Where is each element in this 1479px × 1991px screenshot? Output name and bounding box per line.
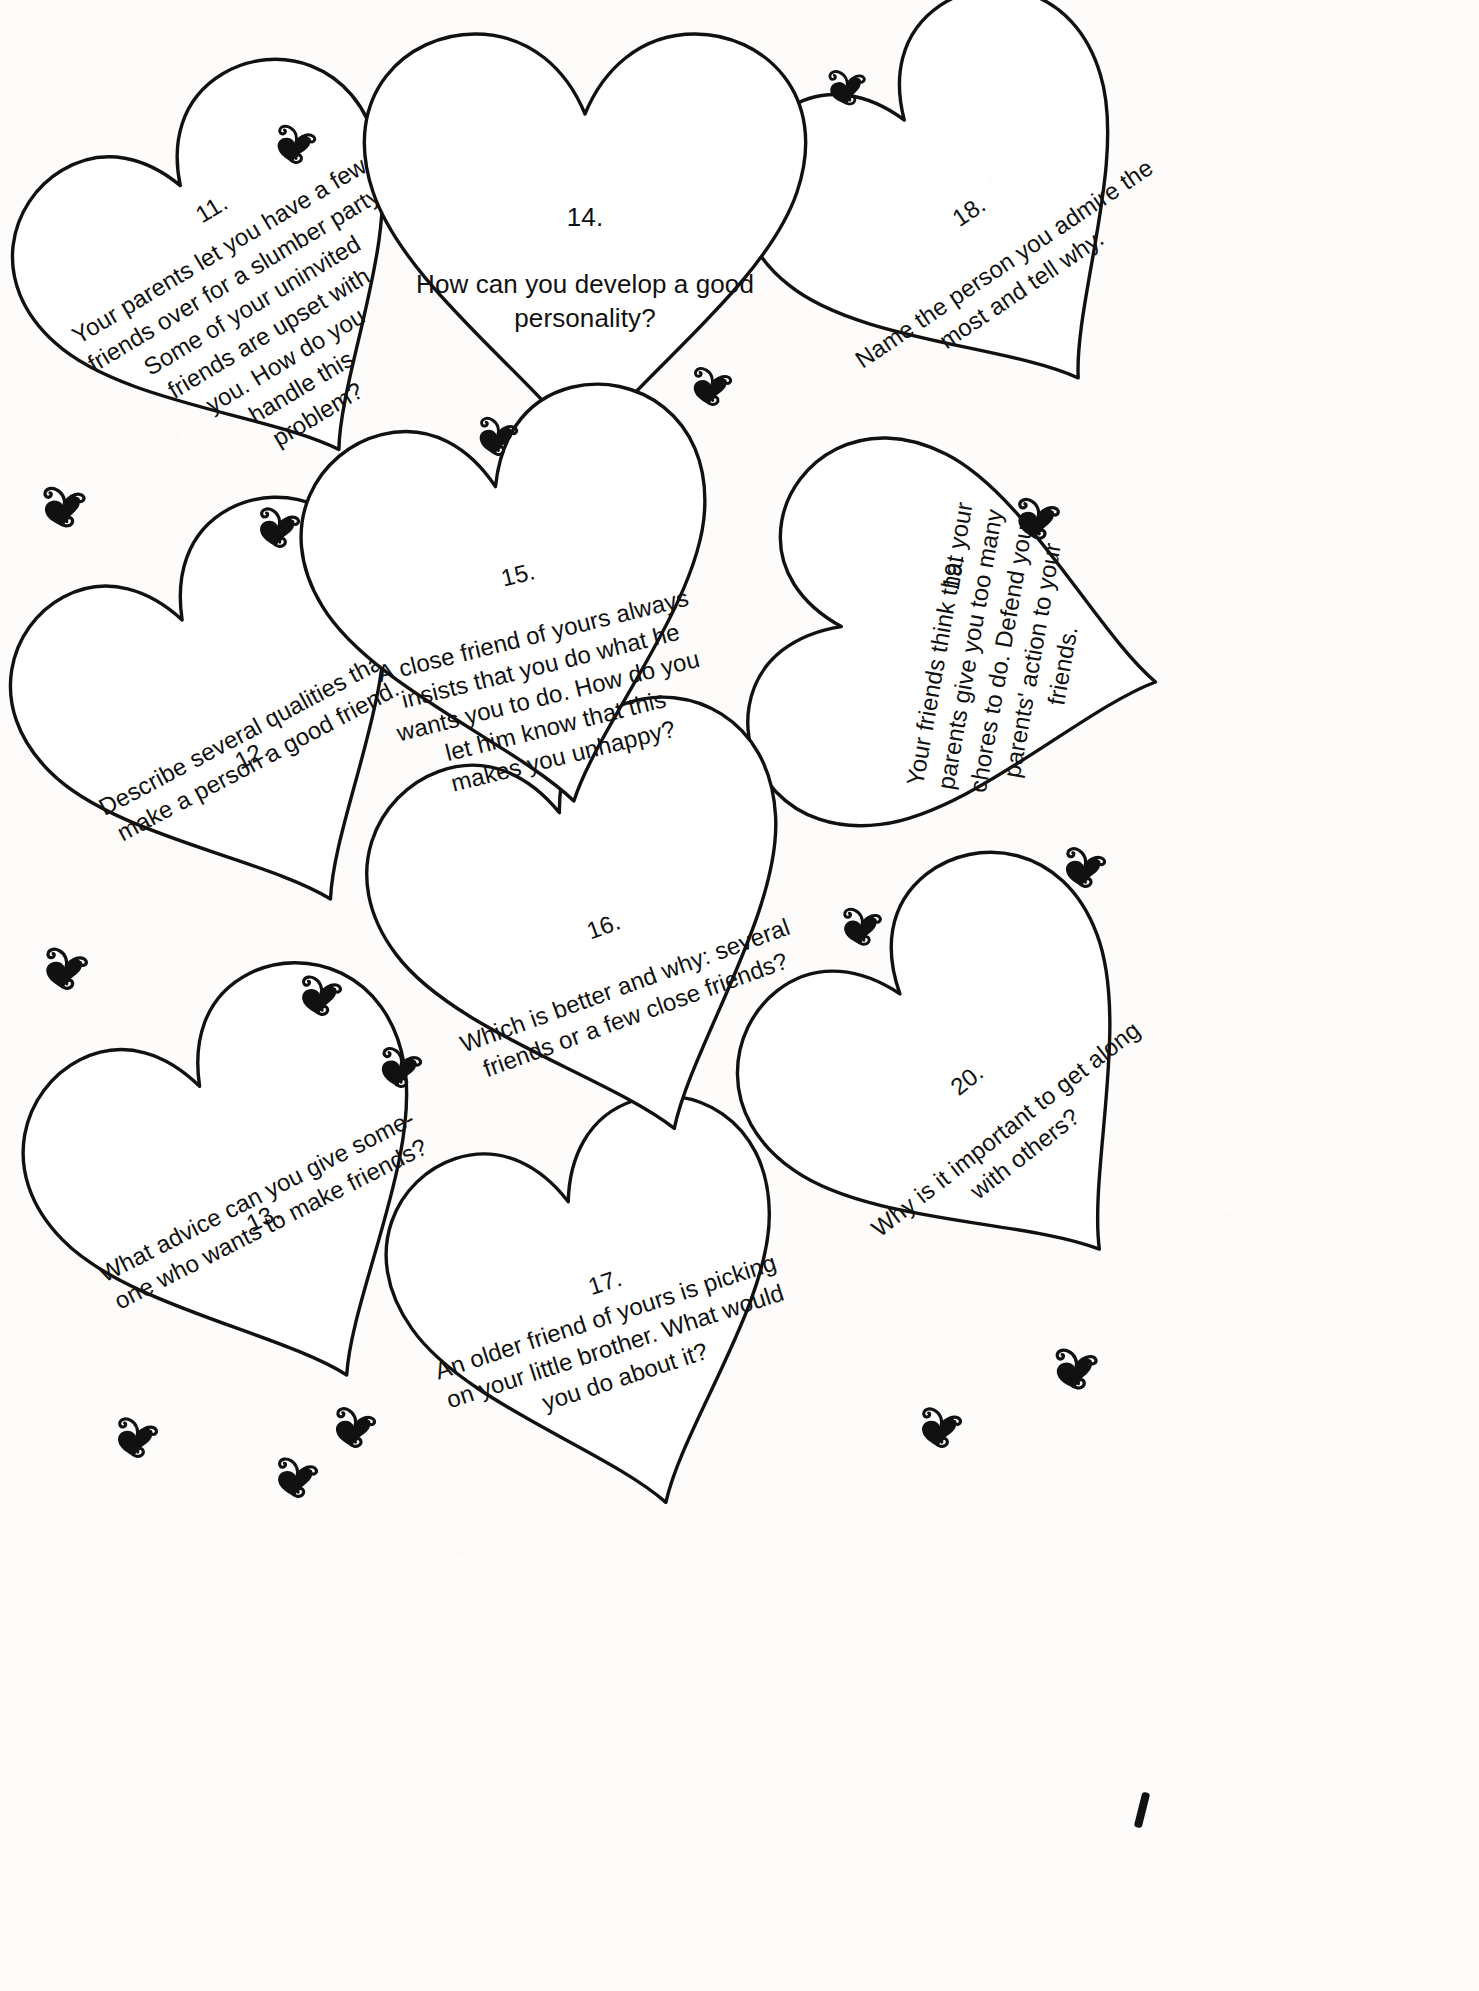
heart-with-curl-icon bbox=[272, 1450, 321, 1499]
heart-with-curl-icon bbox=[915, 1399, 965, 1449]
card-19-body: Your friends think that your parents giv… bbox=[901, 500, 1082, 794]
heart-with-curl-icon bbox=[1012, 490, 1063, 541]
heart-with-curl-icon bbox=[253, 499, 303, 549]
heart-with-curl-icon bbox=[111, 1409, 161, 1459]
heart-with-curl-icon bbox=[36, 476, 89, 529]
card-14-text: 14. How can you develop a good personali… bbox=[400, 167, 770, 336]
heart-with-curl-icon bbox=[1059, 839, 1109, 889]
card-14-number: 14. bbox=[400, 201, 770, 235]
heart-with-curl-icon bbox=[296, 968, 345, 1017]
card-14-body: How can you develop a good personality? bbox=[416, 269, 754, 333]
heart-with-curl-icon bbox=[270, 116, 319, 165]
heart-with-curl-icon bbox=[822, 60, 870, 108]
heart-with-curl-icon bbox=[374, 1038, 425, 1089]
heart-with-curl-icon bbox=[687, 359, 735, 407]
heart-with-curl-icon bbox=[329, 1399, 379, 1449]
heart-with-curl-icon bbox=[837, 899, 885, 947]
heart-with-curl-icon bbox=[473, 409, 521, 457]
heart-with-curl-icon bbox=[1049, 1339, 1102, 1392]
worksheet-page: 14. How can you develop a good personali… bbox=[0, 0, 1479, 1991]
stray-tick-mark bbox=[1134, 1792, 1150, 1829]
heart-with-curl-icon bbox=[39, 939, 91, 991]
